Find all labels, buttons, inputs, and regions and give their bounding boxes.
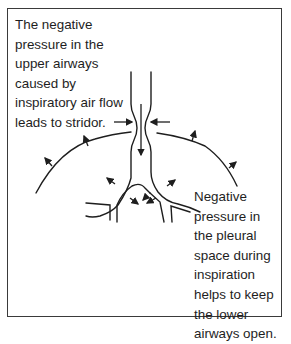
left-pleural-line: [36, 132, 131, 193]
left-lower-bronchus-inner: [117, 184, 150, 222]
lower-arrow-left: [143, 196, 147, 200]
bronchus-arrow-right: [167, 180, 175, 186]
bronchus-arrow-left: [107, 178, 115, 184]
carina-arrow-right: [147, 198, 156, 203]
right-lower-bronchus-outer: [171, 206, 190, 222]
right-lower-bronchus-inner: [150, 193, 164, 222]
carina-arrow-left: [130, 198, 138, 204]
trachea-right-wall: [145, 72, 200, 212]
outward-arrow-right-2: [229, 162, 236, 168]
outward-arrow-right-1: [192, 131, 195, 141]
right-pleural-line: [157, 133, 237, 186]
outward-arrow-left-1: [45, 158, 52, 166]
trachea-left-wall: [86, 72, 137, 217]
